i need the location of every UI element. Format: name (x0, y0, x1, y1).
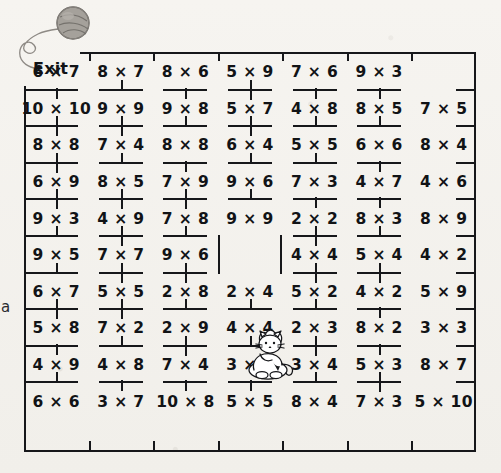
maze-cell[interactable]: 7 × 7 (89, 237, 154, 274)
maze-cell[interactable]: 9 × 6 (218, 164, 283, 201)
maze-cell[interactable]: 7 × 8 (153, 200, 218, 237)
margin-letter: a (1, 298, 10, 316)
maze-cell[interactable]: 8 × 4 (282, 383, 347, 420)
maze-cell[interactable]: 5 × 5 (282, 127, 347, 164)
maze-cell[interactable]: 2 × 2 (282, 200, 347, 237)
wall-tick (218, 441, 220, 450)
maze-cell[interactable]: 5 × 8 (24, 310, 89, 347)
maze-cell[interactable]: 8 × 7 (89, 54, 154, 91)
maze-cell[interactable]: 4 × 9 (24, 347, 89, 384)
maze-cell[interactable]: 4 × 2 (347, 274, 412, 311)
maze-cell[interactable]: 8 × 6 (153, 54, 218, 91)
maze-cell[interactable]: 9 × 3 (347, 54, 412, 91)
maze-cell[interactable]: 5 × 7 (218, 91, 283, 128)
maze-cell[interactable]: 4 × 8 (89, 347, 154, 384)
maze-cell[interactable]: 2 × 4 (218, 274, 283, 311)
cat-icon (240, 326, 306, 382)
maze-cell[interactable]: 9 × 8 (153, 91, 218, 128)
maze-cell[interactable]: 3 × 7 (89, 383, 154, 420)
maze-cell[interactable]: 6 × 9 (24, 164, 89, 201)
maze-cell[interactable]: 9 × 5 (24, 237, 89, 274)
maze-cell[interactable]: 5 × 9 (411, 274, 476, 311)
maze-cell[interactable]: 4 × 8 (282, 91, 347, 128)
maze-cell[interactable]: 7 × 3 (347, 383, 412, 420)
maze-cell[interactable]: 5 × 5 (89, 274, 154, 311)
wall-vertical (218, 235, 220, 274)
wall-tick (282, 441, 284, 450)
wall-tick (411, 52, 413, 61)
maze-cell[interactable]: 7 × 5 (411, 91, 476, 128)
maze-cell[interactable]: 10 × 10 (24, 91, 89, 128)
wall-tick (347, 441, 349, 450)
maze-cell[interactable]: 8 × 5 (89, 164, 154, 201)
maze-border-bottom (24, 450, 476, 452)
wall-tick (153, 441, 155, 450)
maze-cell[interactable]: 2 × 8 (153, 274, 218, 311)
maze-cell[interactable]: 6 × 7 (24, 54, 89, 91)
maze-cell[interactable]: 4 × 7 (347, 164, 412, 201)
wall-tick (89, 441, 91, 450)
maze-cell[interactable]: 8 × 8 (24, 127, 89, 164)
yarn-ball-icon (55, 5, 91, 41)
maze-cell[interactable]: 8 × 8 (153, 127, 218, 164)
maze-cell[interactable]: 7 × 3 (282, 164, 347, 201)
maze-cell[interactable]: 5 × 4 (347, 237, 412, 274)
maze-cell[interactable]: 8 × 7 (411, 347, 476, 384)
maze-cell[interactable]: 9 × 9 (89, 91, 154, 128)
maze-cell[interactable]: 4 × 6 (411, 164, 476, 201)
maze-cell[interactable]: 7 × 9 (153, 164, 218, 201)
maze-cell[interactable]: 9 × 3 (24, 200, 89, 237)
maze-cell[interactable]: 4 × 2 (411, 237, 476, 274)
maze-cell[interactable]: 7 × 4 (89, 127, 154, 164)
maze-cell[interactable]: 7 × 6 (282, 54, 347, 91)
worksheet-page: Exit a 6 × 78 × 78 × 65 × 97 × 69 × 310 … (0, 0, 501, 473)
maze-cell[interactable]: 9 × 6 (153, 237, 218, 274)
maze-cell[interactable]: 5 × 2 (282, 274, 347, 311)
maze-cell[interactable]: 3 × 3 (411, 310, 476, 347)
maze-cell[interactable]: 5 × 3 (347, 347, 412, 384)
maze-cell[interactable]: 5 × 5 (218, 383, 283, 420)
maze-cell[interactable]: 2 × 9 (153, 310, 218, 347)
maze-cell[interactable]: 8 × 5 (347, 91, 412, 128)
maze-cell[interactable]: 7 × 2 (89, 310, 154, 347)
maze-cell[interactable]: 5 × 10 (411, 383, 476, 420)
maze-cell[interactable]: 8 × 3 (347, 200, 412, 237)
maze-cell[interactable]: 8 × 4 (411, 127, 476, 164)
maze-cell[interactable]: 6 × 6 (347, 127, 412, 164)
maze-cell[interactable]: 10 × 8 (153, 383, 218, 420)
maze-cell[interactable]: 5 × 9 (218, 54, 283, 91)
maze-cell[interactable]: 6 × 6 (24, 383, 89, 420)
wall-tick (411, 441, 413, 450)
maze-cell[interactable]: 6 × 4 (218, 127, 283, 164)
maze-cell[interactable]: 7 × 4 (153, 347, 218, 384)
maze-cell[interactable]: 4 × 9 (89, 200, 154, 237)
maze-cell[interactable]: 8 × 2 (347, 310, 412, 347)
maze-grid: 6 × 78 × 78 × 65 × 97 × 69 × 310 × 109 ×… (24, 86, 476, 452)
maze-cell[interactable]: 8 × 9 (411, 200, 476, 237)
maze-cell[interactable]: 6 × 7 (24, 274, 89, 311)
maze-cell[interactable]: 9 × 9 (218, 200, 283, 237)
maze-cell[interactable]: 4 × 4 (282, 237, 347, 274)
